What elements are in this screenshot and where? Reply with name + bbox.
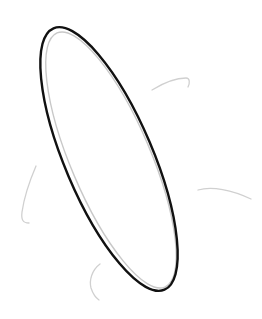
- tendril-right: [198, 188, 251, 199]
- tendril-left: [22, 166, 36, 223]
- tendril-top-right: [152, 78, 189, 90]
- drawing-canvas: [0, 0, 262, 319]
- tendril-bottom: [90, 264, 100, 300]
- inner-ellipse: [20, 17, 201, 302]
